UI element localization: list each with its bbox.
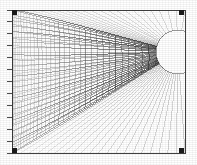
corner-marker	[12, 148, 17, 153]
corner-marker	[179, 10, 184, 15]
corner-marker	[179, 148, 184, 153]
corner-marker	[12, 10, 17, 15]
figure-root	[0, 0, 197, 165]
wireframe-mesh-plot	[0, 0, 197, 165]
mesh-group	[12, 10, 197, 153]
haze-overlay	[12, 10, 185, 153]
